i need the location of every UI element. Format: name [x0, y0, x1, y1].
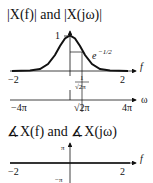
phase-tick-neg2: −2	[8, 166, 19, 177]
magnitude-title: |X(f)| and |X(jω)|	[7, 7, 102, 23]
marker-denominator: √2π	[75, 83, 86, 91]
f-tick-2: 2	[120, 74, 125, 85]
fourier-gaussian-diagram: |X(f)| and |X(jω)| 1 f −2 2 e −1/2 1 √2π…	[0, 0, 153, 183]
omega-tick-neg4pi: −4π	[11, 102, 27, 113]
annotation-exp: −1/2	[98, 48, 112, 56]
omega-tick-4pi: 4π	[122, 102, 132, 113]
annotation-e: e	[92, 50, 97, 61]
marker-numerator: 1	[80, 74, 84, 82]
phase-f-label: f	[140, 153, 144, 164]
phase-tick-negpi: −π	[55, 176, 63, 183]
f-axis-label: f	[140, 61, 144, 72]
phase-tick-2: 2	[120, 166, 125, 177]
phase-tick-pi: π	[61, 144, 65, 152]
omega-tick-sqrt2pi: √2π	[74, 102, 90, 113]
omega-axis-label: ω	[141, 94, 148, 105]
phase-title: ∡X(f) and ∡X(jω)	[7, 124, 117, 140]
peak-label: 1	[55, 30, 60, 41]
f-tick-neg2: −2	[8, 74, 19, 85]
